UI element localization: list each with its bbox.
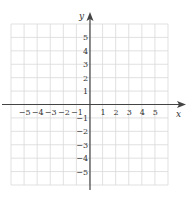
x-tick-labels: −5−4−3−2−112345 <box>19 108 158 117</box>
x-tick-label: 2 <box>114 108 119 117</box>
y-tick-label: −4 <box>76 154 88 163</box>
y-tick-label: 1 <box>83 87 88 96</box>
x-tick-label: −4 <box>32 108 44 117</box>
x-tick-label: −2 <box>58 108 70 117</box>
y-tick-label: 4 <box>83 47 88 56</box>
y-tick-label: −3 <box>76 141 88 150</box>
coordinate-plane: x y −5−4−3−2−112345 54321−1−2−3−4−5 <box>0 0 191 197</box>
x-tick-label: 1 <box>101 108 106 117</box>
y-tick-label: −2 <box>76 127 88 136</box>
x-axis-label: x <box>176 109 181 119</box>
axes <box>2 12 186 190</box>
y-axis-label: y <box>78 11 85 21</box>
x-tick-label: 3 <box>127 108 132 117</box>
y-tick-label: 3 <box>83 60 88 69</box>
x-tick-label: −5 <box>19 108 31 117</box>
y-tick-label: 5 <box>83 33 88 42</box>
y-tick-label: 2 <box>83 74 88 83</box>
y-tick-label: −1 <box>76 114 88 123</box>
x-tick-label: −3 <box>45 108 57 117</box>
y-tick-label: −5 <box>76 168 88 177</box>
x-tick-label: 4 <box>140 108 145 117</box>
x-tick-label: 5 <box>153 108 158 117</box>
